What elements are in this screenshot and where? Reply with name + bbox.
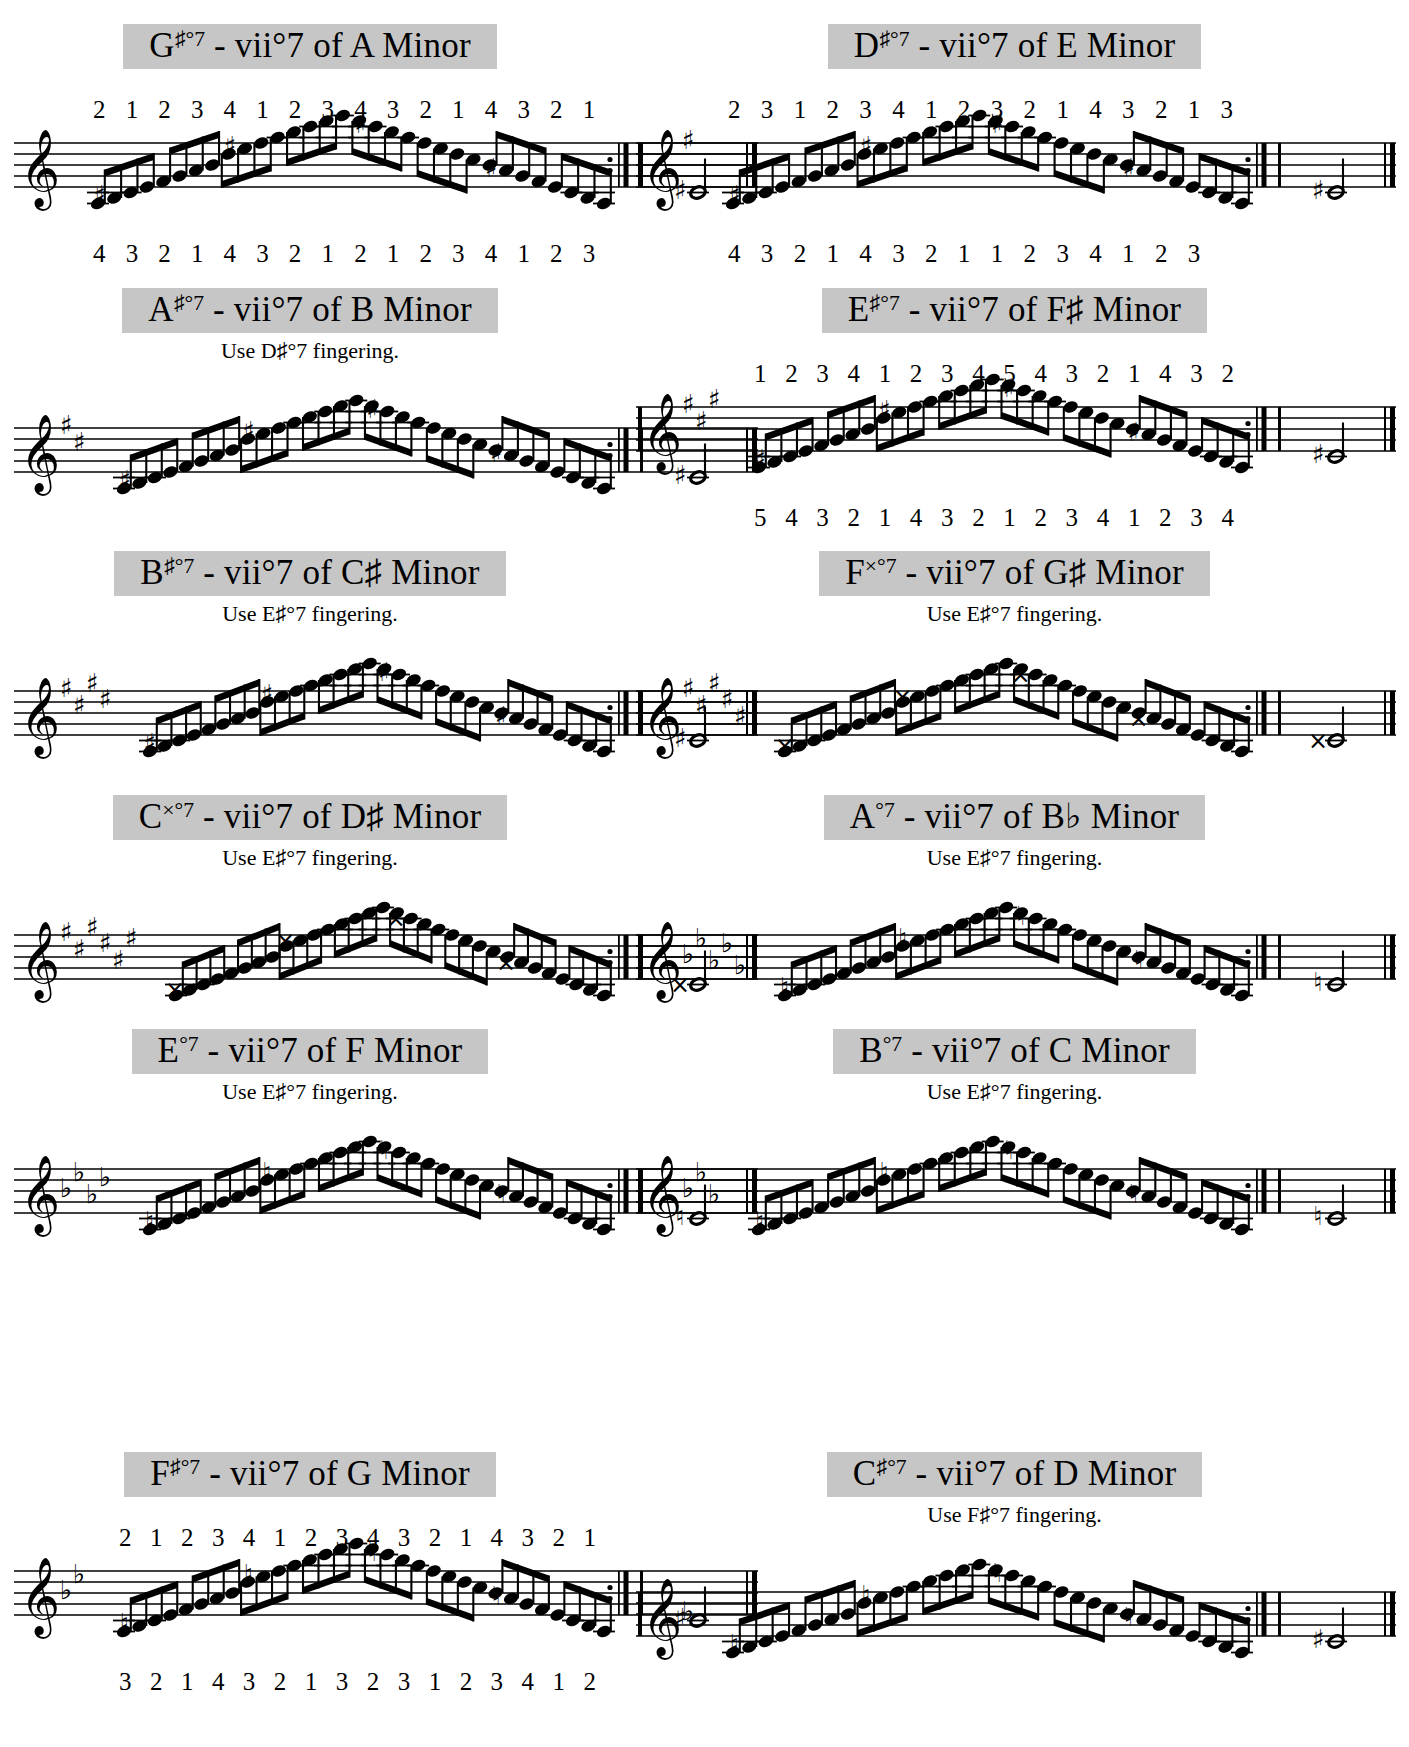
fingering-number-above: 1 <box>150 1525 163 1550</box>
fingering-number-above: 2 <box>553 1525 566 1550</box>
exercise-title-wrap: G♯°7 - vii°7 of A Minor <box>0 24 620 69</box>
staff-system: 𝄞♭♭♭♭♮♮♮♮♮ <box>14 1117 634 1307</box>
exercise-title: C♯°7 - vii°7 of D Minor <box>827 1452 1203 1497</box>
treble-clef-icon: 𝄞 <box>642 1154 682 1237</box>
sharp-accidental-icon: ♯ <box>495 701 508 731</box>
double-sharp-accidental-icon: × <box>275 927 295 955</box>
fingering-number-above: 4 <box>847 361 860 386</box>
exercise-title: B°7 - vii°7 of C Minor <box>833 1029 1196 1074</box>
beam <box>1064 1196 1111 1220</box>
flat-accidental-icon: ♭ <box>682 1596 694 1626</box>
fingering-number-above: 3 <box>212 1525 225 1550</box>
fingering-number-below: 2 <box>367 1669 380 1694</box>
natural-accidental-icon: ♮ <box>262 1157 271 1187</box>
sheet-music-page: G♯°7 - vii°7 of A Minor𝄞♯♯♯♯♯21234123432… <box>0 0 1409 1747</box>
chord-function: - vii°7 of G Minor <box>200 1454 470 1493</box>
fingering-number-above: 2 <box>910 361 923 386</box>
fingering-number-below: 2 <box>419 241 432 266</box>
sharp-accidental-icon: ♯ <box>60 673 73 703</box>
fingering-number-below: 1 <box>305 1669 318 1694</box>
exercise-title: G♯°7 - vii°7 of A Minor <box>123 24 497 69</box>
sharp-accidental-icon: ♯ <box>682 389 695 419</box>
fingering-number-below: 2 <box>274 1669 287 1694</box>
sharp-accidental-icon: ♯ <box>86 912 99 942</box>
flat-accidental-icon: ♭ <box>708 945 720 975</box>
double-sharp-accidental-icon: × <box>386 905 406 933</box>
fingering-number-below: 2 <box>847 505 860 530</box>
sharp-accidental-icon: ♯ <box>86 668 99 698</box>
exercise-title: E♯°7 - vii°7 of F♯ Minor <box>822 288 1207 333</box>
double-sharp-accidental-icon: × <box>1128 705 1148 733</box>
sharp-accidental-icon: ♯ <box>73 934 86 964</box>
natural-accidental-icon: ♮ <box>755 1206 764 1236</box>
exercise-title: E°7 - vii°7 of F Minor <box>132 1029 489 1074</box>
fingering-number-below: 3 <box>452 241 465 266</box>
fingering-number-above: 1 <box>879 361 892 386</box>
chord-root: C <box>139 797 163 836</box>
fingering-number-below: 1 <box>191 241 204 266</box>
fingering-number-below: 1 <box>429 1669 442 1694</box>
chord-accidental-superscript: °7 <box>875 798 895 822</box>
fingering-number-above: 4 <box>367 1525 380 1550</box>
chord-accidental-superscript: ×°7 <box>865 554 897 578</box>
fingering-number-above: 1 <box>452 97 465 122</box>
sharp-accidental-icon: ♯ <box>682 125 695 155</box>
treble-clef-icon: 𝄞 <box>642 128 682 211</box>
fingering-number-below: 3 <box>816 505 829 530</box>
fingering-number-above: 2 <box>1221 361 1234 386</box>
flat-accidental-icon: ♭ <box>695 923 707 953</box>
fingering-number-above: 3 <box>991 97 1004 122</box>
fingering-number-above: 3 <box>322 97 335 122</box>
sharp-accidental-icon: ♯ <box>378 657 391 687</box>
beam <box>1014 696 1058 720</box>
treble-clef-icon: 𝄞 <box>642 392 682 475</box>
sharp-accidental-icon: ♯ <box>60 917 73 947</box>
fingering-number-below: 3 <box>1066 505 1079 530</box>
sharp-accidental-icon: ♯ <box>1312 175 1325 205</box>
chord-function: - vii°7 of B Minor <box>204 290 472 329</box>
beam <box>989 1597 1038 1621</box>
fingering-number-below: 3 <box>583 241 596 266</box>
fingering-number-above: 1 <box>1056 97 1069 122</box>
fingering-number-above: 2 <box>119 1525 132 1550</box>
chord-function: - vii°7 of B♭ Minor <box>895 797 1179 836</box>
fingering-number-below: 4 <box>224 241 237 266</box>
sharp-accidental-icon: ♯ <box>695 690 708 720</box>
fingering-number-above: 1 <box>584 1525 597 1550</box>
sharp-accidental-icon: ♯ <box>1122 153 1135 183</box>
chord-function: - vii°7 of C Minor <box>902 1031 1170 1070</box>
exercise-title-wrap: B♯°7 - vii°7 of C♯ Minor <box>0 551 620 596</box>
fingering-number-below: 2 <box>1159 505 1172 530</box>
beam <box>390 940 431 964</box>
fingering-number-below: 1 <box>1003 505 1016 530</box>
fingering-number-above: 1 <box>754 361 767 386</box>
fingering-number-above: 4 <box>224 97 237 122</box>
fingering-number-below: 3 <box>1190 505 1203 530</box>
double-sharp-accidental-icon: × <box>165 976 185 1004</box>
flat-accidental-icon: ♭ <box>708 1179 720 1209</box>
fingering-number-below: 2 <box>972 505 985 530</box>
fingering-note: Use E♯°7 fingering. <box>620 1079 1409 1105</box>
fingering-number-above: 2 <box>289 97 302 122</box>
fingering-number-above: 1 <box>925 97 938 122</box>
flat-accidental-icon: ♭ <box>682 939 694 969</box>
exercise-title-wrap: A♯°7 - vii°7 of B Minor <box>0 288 620 333</box>
fingering-number-below: 1 <box>991 241 1004 266</box>
sharp-accidental-icon: ♯ <box>99 928 112 958</box>
fingering-note: Use E♯°7 fingering. <box>0 845 620 871</box>
fingering-number-below: 1 <box>181 1669 194 1694</box>
staff-system: 𝄞♭♭♮♮♮♮♯21234123432143213214321323123412 <box>14 1519 634 1709</box>
chord-accidental-superscript: ♯°7 <box>175 27 205 51</box>
exercise-title-wrap: C×°7 - vii°7 of D♯ Minor <box>0 795 620 840</box>
flat-accidental-icon: ♭ <box>734 950 746 980</box>
fingering-note: Use E♯°7 fingering. <box>620 601 1409 627</box>
sharp-accidental-icon: ♯ <box>261 679 274 709</box>
sharp-accidental-icon: ♯ <box>721 684 734 714</box>
fingering-number-below: 4 <box>1097 505 1110 530</box>
exercise-title-wrap: B°7 - vii°7 of C Minor <box>620 1029 1409 1074</box>
fingering-number-below: 4 <box>859 241 872 266</box>
chord-accidental-superscript: ♯°7 <box>164 554 194 578</box>
fingering-number-above: 4 <box>892 97 905 122</box>
beam <box>427 1598 473 1622</box>
double-sharp-accidental-icon: × <box>496 949 516 977</box>
